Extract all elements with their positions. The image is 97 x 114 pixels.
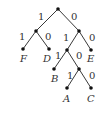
leaf-label-C: C bbox=[87, 93, 95, 104]
leaf-label-B: B bbox=[50, 73, 58, 84]
leaf-label-F: F bbox=[19, 53, 28, 64]
code-tree: 1 0 1 0 1 0 1 0 1 0 F D E B A C bbox=[0, 0, 97, 114]
edge-label-n3-right: 0 bbox=[76, 50, 82, 61]
leaf-label-E: E bbox=[86, 53, 95, 64]
edge-label-n2-left: 1 bbox=[63, 32, 69, 43]
edge-label-n3-left: 1 bbox=[55, 50, 61, 61]
node-n1 bbox=[34, 29, 38, 33]
node-B bbox=[52, 67, 56, 71]
node-root bbox=[56, 7, 60, 11]
node-C bbox=[89, 86, 93, 90]
node-A bbox=[65, 86, 69, 90]
node-n2 bbox=[77, 29, 81, 33]
node-F bbox=[21, 47, 25, 51]
node-D bbox=[47, 47, 51, 51]
edge-label-n4-right: 0 bbox=[89, 70, 95, 81]
node-E bbox=[89, 48, 93, 52]
node-n3 bbox=[65, 48, 69, 52]
edge-label-root-right: 0 bbox=[71, 11, 77, 22]
node-n4 bbox=[77, 67, 81, 71]
edge-label-n4-left: 1 bbox=[67, 70, 73, 81]
leaf-label-D: D bbox=[42, 53, 51, 64]
edge-label-n1-right: 0 bbox=[45, 31, 51, 42]
leaf-label-A: A bbox=[62, 93, 70, 104]
edge-label-n1-left: 1 bbox=[19, 31, 25, 42]
edge-label-root-left: 1 bbox=[38, 11, 44, 22]
edge-label-n2-right: 0 bbox=[89, 32, 95, 43]
